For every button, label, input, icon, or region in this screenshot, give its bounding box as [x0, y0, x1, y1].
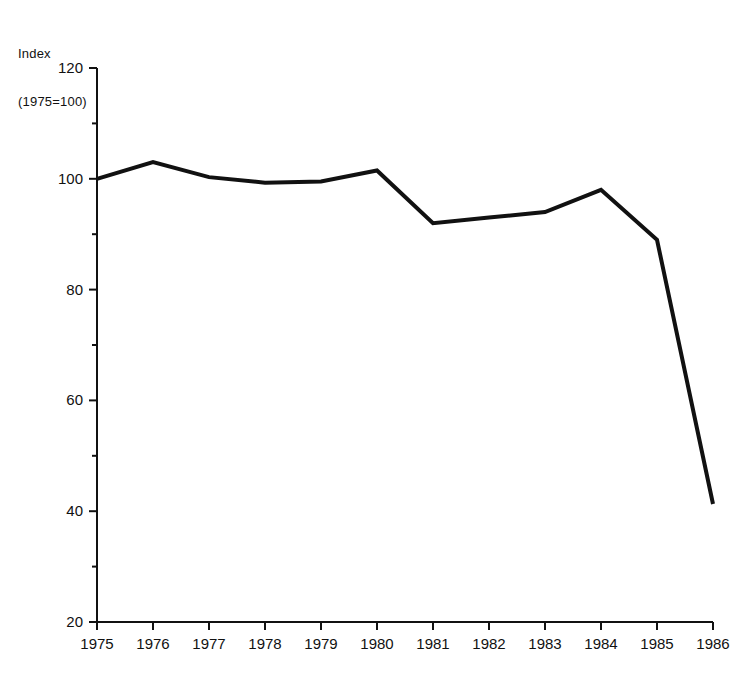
data-series-line [97, 162, 713, 504]
x-axis-tick-label: 1976 [136, 635, 169, 652]
x-axis-tick-label: 1981 [416, 635, 449, 652]
x-axis-tick-label: 1977 [192, 635, 225, 652]
y-axis-tick-label: 100 [58, 170, 83, 187]
x-axis-tick-label: 1975 [80, 635, 113, 652]
x-axis-tick-label: 1978 [248, 635, 281, 652]
x-axis-tick-label: 1985 [640, 635, 673, 652]
x-axis-group: 1975197619771978197919801981198219831984… [80, 622, 729, 652]
x-axis-tick-label: 1980 [360, 635, 393, 652]
x-axis-tick-label: 1982 [472, 635, 505, 652]
x-axis-ticks [97, 622, 713, 630]
x-axis-tick-label: 1983 [528, 635, 561, 652]
x-axis-tick-label: 1979 [304, 635, 337, 652]
y-axis-tick-label: 20 [66, 613, 83, 630]
y-axis-group: 20406080100120 [58, 59, 97, 630]
y-axis-tick-labels: 20406080100120 [58, 59, 83, 630]
y-axis-tick-label: 80 [66, 281, 83, 298]
line-chart-plot: 20406080100120 1975197619771978197919801… [0, 0, 747, 679]
y-axis-tick-label: 60 [66, 391, 83, 408]
x-axis-tick-label: 1986 [696, 635, 729, 652]
y-axis-tick-label: 120 [58, 59, 83, 76]
y-axis-tick-label: 40 [66, 502, 83, 519]
x-axis-tick-labels: 1975197619771978197919801981198219831984… [80, 635, 729, 652]
chart-container: Index (1975=100) 20406080100120 19751976… [0, 0, 747, 679]
x-axis-tick-label: 1984 [584, 635, 617, 652]
